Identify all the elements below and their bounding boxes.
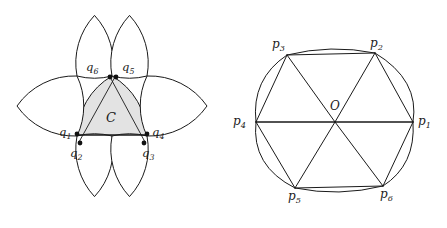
label-p1: p1 (418, 115, 431, 130)
label-p4: p4 (233, 115, 246, 130)
label-q5: q5 (122, 62, 134, 76)
figure-root: q6 q5 q1 q2 q4 q3 C (0, 0, 447, 228)
right-figure-curved-hexagon (224, 0, 447, 228)
chord-p2-p1 (375, 53, 413, 122)
chord-p5-p4 (256, 122, 295, 188)
label-p6: p6 (380, 188, 393, 203)
petal-left (17, 76, 84, 136)
label-q2: q2 (70, 148, 82, 162)
label-q4: q4 (152, 127, 164, 141)
petal-right (140, 76, 207, 136)
dot-q3 (142, 141, 147, 146)
label-p3: p3 (272, 38, 285, 53)
label-p2: p2 (370, 37, 383, 52)
chord-p4-p3 (256, 55, 287, 122)
radius-O-p2 (335, 53, 375, 122)
label-q6: q6 (86, 62, 98, 76)
radius-O-p3 (287, 55, 335, 122)
label-p5: p5 (288, 190, 301, 205)
chord-p6-p5 (295, 186, 383, 188)
radius-O-p6 (335, 122, 383, 186)
dot-q5 (114, 75, 119, 80)
label-q1: q1 (59, 127, 71, 141)
chord-p3-p2 (287, 53, 375, 55)
radius-O-p5 (295, 122, 335, 188)
label-O: O (330, 100, 340, 112)
dot-q6 (108, 75, 113, 80)
dot-q2 (78, 141, 83, 146)
chord-p1-p6 (383, 122, 413, 186)
dot-q1 (75, 132, 80, 137)
label-q3: q3 (142, 148, 154, 162)
dot-q4 (145, 132, 150, 137)
label-C: C (106, 111, 116, 124)
